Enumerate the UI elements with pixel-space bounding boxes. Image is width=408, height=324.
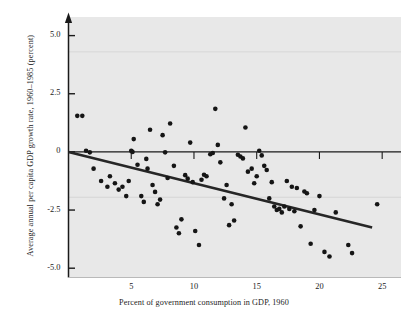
y-axis-title-area: Average annual per capita GDP growth rat… [0,0,56,290]
x-tick-label: 10 [179,282,209,291]
y-tick-label: 5.0 [27,30,61,39]
y-tick-label: -5.0 [27,263,61,272]
x-tick-label: 5 [116,282,146,291]
figure-container: Average annual per capita GDP growth rat… [0,0,408,324]
x-tick-label: 25 [367,282,397,291]
scatter-plot [0,0,408,324]
plot-background [69,17,402,278]
y-tick-label: -2.5 [27,205,61,214]
x-tick-label: 20 [304,282,334,291]
y-tick-label: 0 [27,146,61,155]
x-tick-label: 15 [242,282,272,291]
y-tick-label: 2.5 [27,88,61,97]
x-axis-title: Percent of government consumption in GDP… [0,297,408,308]
